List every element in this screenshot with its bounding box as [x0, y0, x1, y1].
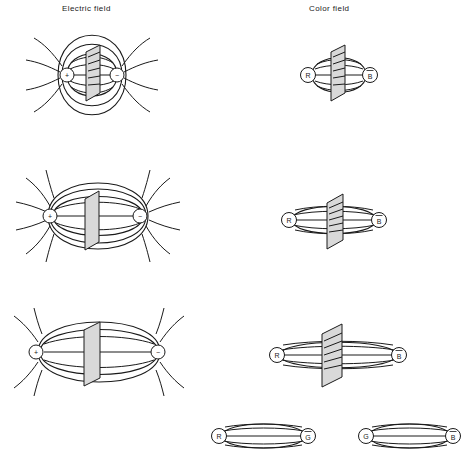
- electric-field-row-1: + −: [26, 35, 158, 115]
- color-field-row-2: R B: [282, 194, 387, 249]
- color-field-row-3: R B: [270, 324, 407, 387]
- charge-antigreen-label: G: [305, 434, 310, 441]
- color-field-row-4-meson-right: G B: [359, 424, 461, 448]
- charge-positive-label: +: [48, 213, 52, 220]
- charge-red-label: R: [216, 433, 221, 440]
- charge-antiblue-label: B: [397, 353, 402, 360]
- charge-positive-label: +: [34, 349, 38, 356]
- charge-red-label: R: [286, 217, 291, 224]
- electric-field-row-2: + −: [16, 170, 180, 262]
- charge-antiblue-label: B: [451, 434, 456, 441]
- intersecting-plane: [84, 322, 100, 386]
- charge-green-label: G: [363, 433, 368, 440]
- charge-negative-label: −: [156, 349, 160, 356]
- color-field-row-4-meson-left: R G: [212, 424, 316, 448]
- flux-tube-lines: [370, 424, 449, 448]
- charge-antiblue-label: B: [368, 73, 373, 80]
- color-field-row-1: R B: [301, 45, 378, 101]
- charge-red-label: R: [274, 352, 279, 359]
- charge-positive-label: +: [65, 72, 69, 79]
- charge-antiblue-label: B: [377, 218, 382, 225]
- charge-negative-label: −: [115, 72, 119, 79]
- charge-negative-label: −: [138, 213, 142, 220]
- intersecting-plane: [327, 194, 343, 249]
- figure-canvas: + − R B: [0, 0, 467, 458]
- flux-tube-lines: [223, 424, 304, 448]
- charge-red-label: R: [305, 72, 310, 79]
- electric-field-row-3: + −: [14, 308, 184, 396]
- intersecting-plane: [322, 324, 342, 387]
- physics-figure: Electric field Color field: [0, 0, 467, 458]
- intersecting-plane: [85, 191, 99, 250]
